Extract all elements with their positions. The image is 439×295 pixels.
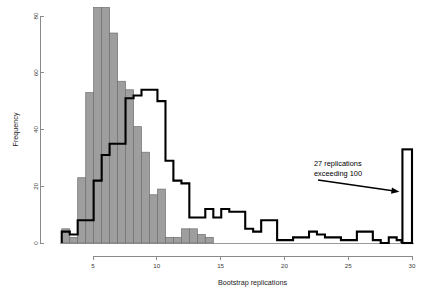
x-tick-label: 20 (281, 262, 288, 269)
y-tick-label: 0 (32, 241, 39, 245)
y-tick-label: 20 (32, 182, 39, 189)
histogram-bar (141, 152, 149, 243)
histogram-bar (165, 237, 173, 243)
histogram-bar (118, 81, 126, 243)
y-axis-title: Frequency (11, 112, 20, 146)
histogram-bar (173, 237, 181, 243)
annotation-arrow-shaft (318, 180, 394, 191)
histogram-bar (110, 33, 118, 243)
histogram-bar (126, 90, 134, 243)
chart-canvas: 020406080 51015202530 27 replicationsexc… (0, 0, 439, 295)
histogram-bar (150, 195, 158, 243)
y-tick-label: 60 (32, 69, 39, 76)
histogram-bar (70, 237, 78, 243)
gray-histogram-bars (62, 7, 214, 243)
histogram-bar (205, 237, 213, 243)
x-axis-title: Bootstrap replications (218, 278, 288, 287)
x-tick-label: 15 (217, 262, 224, 269)
histogram-bar (189, 229, 197, 243)
y-axis: 020406080 (32, 12, 44, 245)
x-axis: 51015202530 (60, 244, 416, 270)
histogram-bar (78, 178, 86, 243)
histogram-bar (102, 7, 110, 243)
histogram-bar (197, 234, 205, 243)
y-tick-label: 40 (32, 126, 39, 133)
histogram-figure: 020406080 51015202530 27 replicationsexc… (0, 0, 439, 295)
x-tick-label: 25 (345, 262, 352, 269)
x-tick-label: 10 (153, 262, 160, 269)
annotation-line-1: 27 replications (314, 159, 362, 168)
x-tick-label: 5 (91, 262, 95, 269)
histogram-bar (181, 229, 189, 243)
x-tick-label: 30 (409, 262, 416, 269)
y-tick-label: 80 (32, 12, 39, 19)
histogram-bar (94, 7, 102, 243)
annotation-arrow-head (391, 187, 399, 193)
overflow-bar (402, 149, 412, 243)
annotation-group: 27 replicationsexceeding 100 (314, 159, 399, 194)
histogram-bar (157, 189, 165, 243)
annotation-line-2: exceeding 100 (314, 169, 362, 178)
overflow-bar-rect (402, 149, 412, 243)
histogram-bar (134, 127, 142, 243)
